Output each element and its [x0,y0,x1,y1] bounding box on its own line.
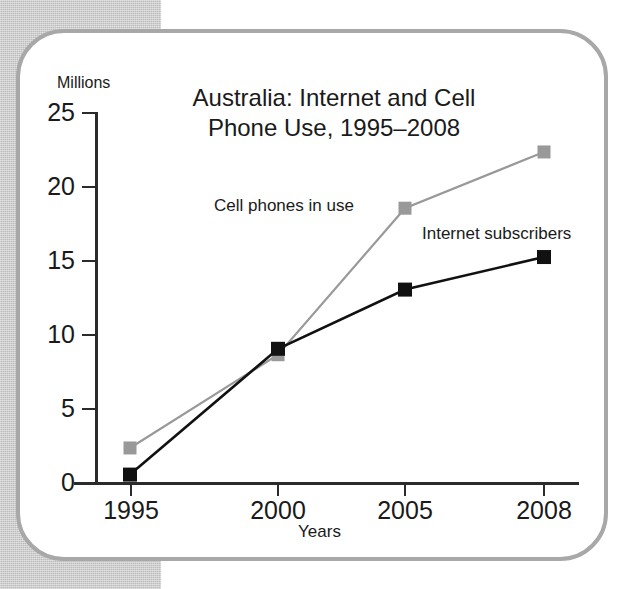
series-markers-internet [123,250,551,482]
leader-line-cell-phones [381,202,401,205]
line-chart: Australia: Internet and Cell Phone Use, … [0,0,639,589]
plot-series-svg [0,0,639,589]
data-point-marker [398,283,412,297]
series-line-cell-phones [130,152,544,448]
data-point-marker [399,202,412,215]
data-point-marker [123,468,137,482]
data-point-marker [271,342,285,356]
series-markers-cell-phones [124,145,551,454]
leader-line-internet [524,246,539,252]
data-point-marker [538,145,551,158]
data-point-marker [124,441,137,454]
series-line-internet [130,257,544,475]
data-point-marker [537,250,551,264]
